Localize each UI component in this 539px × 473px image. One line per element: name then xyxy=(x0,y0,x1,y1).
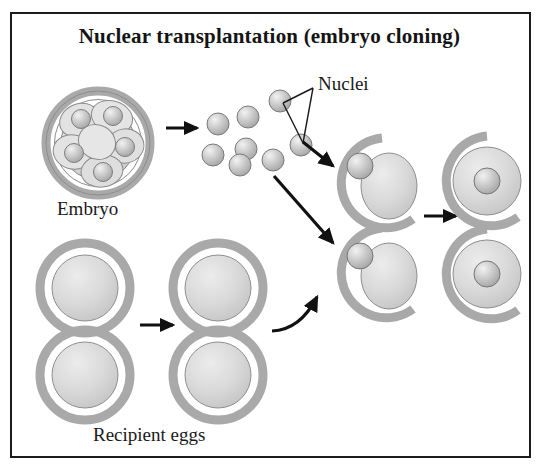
arrow-nuclei-to-lower-egg xyxy=(274,176,333,243)
nucleus-insertion-group xyxy=(341,138,417,318)
diagram-canvas xyxy=(0,0,539,473)
embryo-label: Embryo xyxy=(57,198,118,220)
arrow-eggs-to-insertion xyxy=(272,297,317,331)
embryo-nucleus xyxy=(94,163,113,182)
leader-line-lower xyxy=(303,88,313,143)
egg-cytoplasm xyxy=(52,342,118,408)
egg-cytoplasm xyxy=(52,255,118,321)
embryo-nucleus xyxy=(116,138,135,157)
donor-nucleus xyxy=(347,243,373,269)
egg-cytoplasm xyxy=(185,255,251,321)
isolated-nuclei-group xyxy=(202,90,312,176)
recipient-egg xyxy=(40,243,130,333)
egg-cytoplasm xyxy=(185,342,251,408)
isolated-nucleus xyxy=(202,144,224,166)
nuclei-label: Nuclei xyxy=(318,73,369,95)
isolated-nucleus xyxy=(229,154,251,176)
embryo-nucleus xyxy=(72,110,91,129)
recipient-egg xyxy=(173,330,263,420)
egg-with-inserted-nucleus xyxy=(341,228,417,318)
recipient-egg xyxy=(40,330,130,420)
donor-nucleus xyxy=(347,153,373,179)
embryo-nucleus xyxy=(104,107,123,126)
recipient-eggs-column-2 xyxy=(173,243,263,420)
recipient-egg xyxy=(173,243,263,333)
isolated-nucleus xyxy=(262,149,284,171)
egg-with-inserted-nucleus xyxy=(341,138,417,228)
reconstructed-embryo xyxy=(446,229,521,319)
recipient-eggs-label: Recipient eggs xyxy=(93,424,205,446)
figure-root: Nuclear transplantation (embryo cloning) xyxy=(0,0,539,473)
reconstructed-embryo xyxy=(446,136,521,226)
isolated-nucleus xyxy=(207,113,229,135)
transplanted-nucleus xyxy=(474,168,500,194)
embryo-nucleus xyxy=(65,144,84,163)
recipient-eggs-column-1 xyxy=(40,243,130,420)
reconstructed-embryos-group xyxy=(446,136,521,319)
transplanted-nucleus xyxy=(474,261,500,287)
embryo-cell-group xyxy=(46,91,150,195)
isolated-nucleus xyxy=(237,106,259,128)
